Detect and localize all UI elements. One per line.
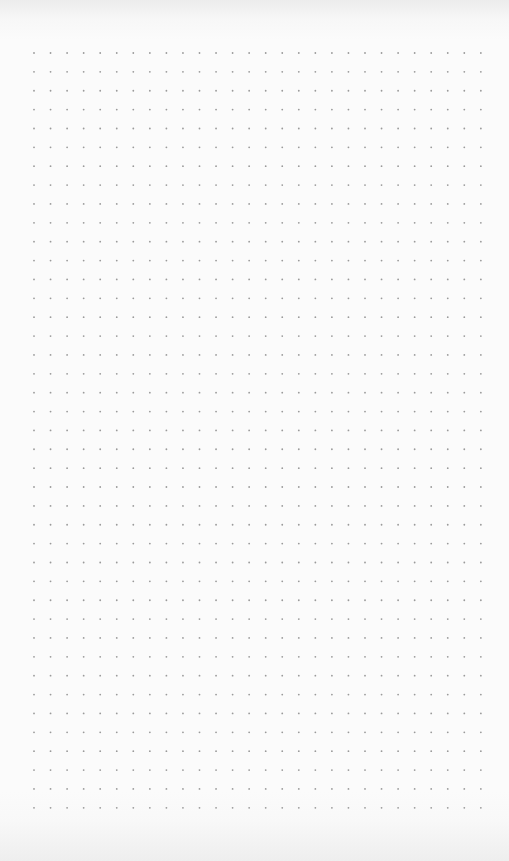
grid-dot bbox=[50, 203, 52, 205]
grid-dot bbox=[182, 297, 184, 299]
grid-dot bbox=[50, 90, 52, 92]
grid-dot bbox=[397, 146, 399, 148]
grid-dot bbox=[430, 222, 432, 224]
grid-dot bbox=[199, 731, 201, 733]
grid-dot bbox=[199, 335, 201, 337]
grid-dot bbox=[381, 675, 383, 677]
grid-dot bbox=[281, 203, 283, 205]
grid-dot bbox=[331, 694, 333, 696]
grid-dot bbox=[50, 448, 52, 450]
grid-dot bbox=[50, 109, 52, 111]
grid-dot bbox=[331, 184, 333, 186]
grid-dot bbox=[397, 184, 399, 186]
grid-dot bbox=[99, 109, 101, 111]
grid-dot bbox=[447, 279, 449, 281]
grid-dot bbox=[381, 335, 383, 337]
grid-dot bbox=[232, 241, 234, 243]
grid-dot bbox=[298, 279, 300, 281]
grid-dot bbox=[463, 146, 465, 148]
grid-dot bbox=[447, 486, 449, 488]
grid-dot bbox=[381, 505, 383, 507]
grid-dot bbox=[248, 656, 250, 658]
grid-dot bbox=[480, 675, 482, 677]
grid-dot bbox=[364, 788, 366, 790]
grid-dot bbox=[83, 354, 85, 356]
grid-dot bbox=[314, 241, 316, 243]
grid-dot bbox=[414, 505, 416, 507]
grid-dot bbox=[182, 128, 184, 130]
grid-dot bbox=[281, 241, 283, 243]
grid-dot bbox=[215, 599, 217, 601]
grid-dot bbox=[463, 297, 465, 299]
grid-dot bbox=[430, 241, 432, 243]
grid-dot bbox=[149, 373, 151, 375]
grid-dot bbox=[348, 543, 350, 545]
grid-dot bbox=[414, 316, 416, 318]
grid-dot bbox=[83, 373, 85, 375]
grid-dot bbox=[215, 467, 217, 469]
grid-dot bbox=[298, 562, 300, 564]
grid-dot bbox=[447, 637, 449, 639]
grid-dot bbox=[232, 109, 234, 111]
grid-dot bbox=[182, 392, 184, 394]
grid-dot bbox=[447, 656, 449, 658]
grid-dot bbox=[447, 788, 449, 790]
grid-dot bbox=[83, 543, 85, 545]
grid-dot bbox=[99, 90, 101, 92]
grid-dot bbox=[265, 543, 267, 545]
grid-dot bbox=[430, 184, 432, 186]
grid-dot bbox=[66, 241, 68, 243]
grid-dot bbox=[166, 297, 168, 299]
grid-dot bbox=[199, 279, 201, 281]
grid-dot bbox=[232, 543, 234, 545]
grid-dot bbox=[166, 788, 168, 790]
grid-dot bbox=[99, 260, 101, 262]
grid-dot bbox=[166, 675, 168, 677]
grid-dot bbox=[281, 128, 283, 130]
grid-dot bbox=[166, 52, 168, 54]
grid-dot bbox=[480, 505, 482, 507]
grid-dot bbox=[314, 128, 316, 130]
grid-dot bbox=[480, 90, 482, 92]
grid-dot bbox=[166, 505, 168, 507]
grid-dot bbox=[463, 675, 465, 677]
grid-dot bbox=[66, 675, 68, 677]
grid-dot bbox=[33, 486, 35, 488]
grid-dot bbox=[348, 524, 350, 526]
grid-dot bbox=[215, 260, 217, 262]
grid-dot bbox=[364, 316, 366, 318]
grid-dot bbox=[132, 109, 134, 111]
grid-dot bbox=[281, 694, 283, 696]
grid-dot bbox=[331, 618, 333, 620]
grid-dot bbox=[314, 430, 316, 432]
grid-dot bbox=[132, 618, 134, 620]
grid-dot bbox=[99, 769, 101, 771]
grid-dot bbox=[414, 467, 416, 469]
grid-dot bbox=[50, 694, 52, 696]
grid-dot bbox=[314, 109, 316, 111]
grid-dot bbox=[116, 165, 118, 167]
grid-dot bbox=[132, 354, 134, 356]
grid-dot bbox=[182, 222, 184, 224]
grid-dot bbox=[232, 637, 234, 639]
grid-dot bbox=[447, 467, 449, 469]
grid-dot bbox=[182, 599, 184, 601]
grid-dot bbox=[281, 411, 283, 413]
grid-dot bbox=[480, 562, 482, 564]
grid-dot bbox=[149, 146, 151, 148]
grid-dot bbox=[232, 279, 234, 281]
grid-dot bbox=[364, 807, 366, 809]
grid-dot bbox=[50, 562, 52, 564]
grid-dot bbox=[149, 618, 151, 620]
grid-dot bbox=[281, 599, 283, 601]
grid-dot bbox=[149, 637, 151, 639]
grid-dot bbox=[348, 448, 350, 450]
grid-dot bbox=[281, 562, 283, 564]
grid-dot bbox=[430, 807, 432, 809]
grid-dot bbox=[116, 750, 118, 752]
grid-dot bbox=[447, 675, 449, 677]
grid-dot bbox=[199, 222, 201, 224]
grid-dot bbox=[66, 203, 68, 205]
grid-dot bbox=[331, 562, 333, 564]
grid-dot bbox=[66, 713, 68, 715]
